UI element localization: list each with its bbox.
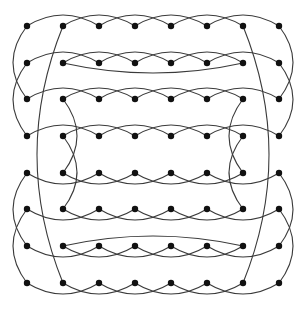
graph-node: [24, 170, 30, 176]
column-arc-edge: [243, 26, 269, 283]
graph-node: [60, 170, 66, 176]
graph-node: [168, 133, 174, 139]
graph-node: [96, 206, 102, 212]
graph-node: [204, 23, 210, 29]
graph-node: [276, 96, 282, 102]
graph-node: [24, 96, 30, 102]
graph-node: [240, 206, 246, 212]
graph-node: [132, 243, 138, 249]
graph-node: [132, 280, 138, 286]
graph-diagram: [0, 0, 305, 311]
graph-node: [60, 96, 66, 102]
nodes-layer: [24, 23, 282, 286]
graph-node: [60, 280, 66, 286]
graph-node: [168, 243, 174, 249]
graph-node: [204, 280, 210, 286]
graph-node: [240, 280, 246, 286]
graph-node: [240, 170, 246, 176]
long-row-arc-edge: [63, 63, 243, 73]
column-arc-edge: [37, 26, 63, 283]
graph-node: [60, 23, 66, 29]
graph-node: [276, 170, 282, 176]
graph-node: [240, 133, 246, 139]
graph-node: [276, 60, 282, 66]
graph-node: [60, 60, 66, 66]
graph-node: [168, 23, 174, 29]
graph-node: [132, 60, 138, 66]
graph-node: [168, 280, 174, 286]
graph-node: [24, 206, 30, 212]
edges-layer: [13, 15, 293, 294]
graph-node: [276, 280, 282, 286]
graph-node: [276, 243, 282, 249]
graph-node: [96, 243, 102, 249]
graph-node: [240, 23, 246, 29]
graph-node: [24, 243, 30, 249]
graph-node: [168, 206, 174, 212]
graph-node: [24, 60, 30, 66]
graph-node: [132, 170, 138, 176]
graph-node: [204, 170, 210, 176]
graph-node: [240, 60, 246, 66]
graph-node: [204, 243, 210, 249]
graph-node: [96, 170, 102, 176]
graph-node: [132, 96, 138, 102]
graph-node: [168, 170, 174, 176]
graph-node: [240, 243, 246, 249]
graph-node: [168, 60, 174, 66]
graph-node: [204, 206, 210, 212]
graph-node: [60, 206, 66, 212]
graph-node: [204, 96, 210, 102]
graph-node: [96, 280, 102, 286]
long-row-arc-edge: [63, 236, 243, 246]
graph-node: [240, 96, 246, 102]
graph-node: [204, 133, 210, 139]
graph-node: [60, 243, 66, 249]
graph-node: [132, 23, 138, 29]
graph-node: [24, 133, 30, 139]
graph-node: [96, 60, 102, 66]
graph-node: [276, 206, 282, 212]
graph-node: [132, 206, 138, 212]
graph-node: [132, 133, 138, 139]
graph-node: [96, 133, 102, 139]
graph-node: [60, 133, 66, 139]
graph-node: [24, 280, 30, 286]
graph-node: [96, 96, 102, 102]
graph-node: [24, 23, 30, 29]
graph-node: [204, 60, 210, 66]
graph-node: [96, 23, 102, 29]
graph-node: [276, 23, 282, 29]
graph-node: [168, 96, 174, 102]
graph-node: [276, 133, 282, 139]
